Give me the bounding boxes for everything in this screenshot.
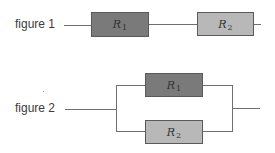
- stray-dot: [43, 91, 44, 92]
- wire-bottom-right: [203, 131, 232, 132]
- wire-between: [149, 24, 197, 25]
- resistor-r2: R2: [145, 120, 203, 144]
- resistor-r1-subscript: 1: [176, 84, 181, 93]
- left-junction: [116, 85, 117, 132]
- wire-out: [232, 108, 260, 109]
- resistor-r2: R2: [197, 12, 254, 36]
- resistor-r1-subscript: 1: [122, 23, 127, 32]
- resistor-r1-symbol: R: [167, 79, 175, 92]
- resistor-r2-symbol: R: [167, 126, 175, 139]
- wire-out: [254, 24, 261, 25]
- wire-in: [65, 109, 116, 110]
- figure-2-label: figure 2: [15, 101, 55, 115]
- wire-bottom-left: [116, 131, 145, 132]
- resistor-r1: R1: [145, 73, 203, 97]
- resistor-r2-subscript: 2: [176, 131, 181, 140]
- figure-1-label: figure 1: [15, 17, 55, 31]
- wire-top-left: [116, 85, 145, 86]
- circuit-diagrams: figure 1 R1 R2 figure 2 R1 R2: [0, 0, 275, 153]
- resistor-r1: R1: [91, 12, 149, 37]
- resistor-r1-symbol: R: [113, 18, 121, 31]
- wire-top-right: [203, 85, 232, 86]
- wire-in: [64, 25, 91, 26]
- resistor-r2-symbol: R: [218, 18, 226, 31]
- resistor-r2-subscript: 2: [228, 23, 233, 32]
